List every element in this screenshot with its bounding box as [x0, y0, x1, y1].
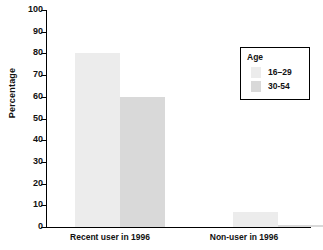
- plot-area: 0 10 20 30 40 50 60 70: [46, 10, 311, 227]
- bar-non-user-16-29: [233, 212, 278, 227]
- y-tick-label-90: 90: [33, 26, 43, 37]
- y-tick-label-70: 70: [33, 69, 43, 80]
- legend-title: Age: [247, 52, 309, 62]
- legend: Age 16–29 30-54: [240, 47, 310, 100]
- y-tick-label-50: 50: [33, 113, 43, 124]
- bar-recent-user-16-29: [75, 53, 120, 227]
- x-group-label-non-user: Non-user in 1996: [180, 232, 308, 242]
- y-tick-label-80: 80: [33, 47, 43, 58]
- legend-swatch-30-54: [251, 81, 261, 92]
- legend-swatch-16-29: [251, 67, 261, 78]
- bar-non-user-30-54: [278, 225, 323, 227]
- y-tick-label-10: 10: [33, 199, 43, 210]
- legend-item-30-54: 30-54: [251, 79, 309, 93]
- x-axis-line: [46, 227, 311, 228]
- y-axis-title: Percentage: [7, 53, 17, 133]
- y-tick-label-20: 20: [33, 178, 43, 189]
- bars-container: [47, 10, 311, 227]
- y-tick-label-100: 100: [28, 4, 43, 15]
- legend-item-16-29: 16–29: [251, 65, 309, 79]
- y-tick-label-30: 30: [33, 156, 43, 167]
- legend-label-30-54: 30-54: [268, 81, 290, 91]
- x-group-label-recent-user: Recent user in 1996: [46, 232, 174, 242]
- y-tick-label-0: 0: [38, 221, 43, 232]
- y-tick-label-60: 60: [33, 91, 43, 102]
- bar-recent-user-30-54: [120, 97, 165, 227]
- y-tick-label-40: 40: [33, 134, 43, 145]
- legend-label-16-29: 16–29: [268, 67, 292, 77]
